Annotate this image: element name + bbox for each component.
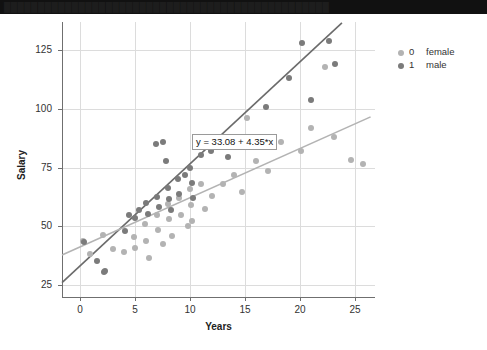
chart-screenshot: ████████████████████████████████████████… [0,0,487,350]
data-point-female [155,227,161,233]
data-point-male [308,97,314,103]
data-point-female [198,181,204,187]
data-point-female [154,212,160,218]
title-bar: ████████████████████████████████████████… [0,0,487,14]
data-point-male [153,141,159,147]
regression-equation-text: y = 33.08 + 4.35*x [196,136,273,147]
data-point-male [198,152,204,158]
data-point-female [348,157,354,163]
plot-area: 2550751001250510152025 Salary Years y = … [0,14,487,350]
legend-item-label: male [426,59,447,70]
data-point-male [326,38,332,44]
data-point-female [142,221,148,227]
legend-item-code: 0 [409,46,414,57]
legend-item-code: 1 [409,59,414,70]
data-point-male [143,200,149,206]
data-point-female [187,186,193,192]
data-point-female [87,251,93,257]
data-point-male [132,215,138,221]
data-point-male [156,204,162,210]
data-point-female [131,234,137,240]
data-point-female [143,238,149,244]
data-point-male [263,104,269,110]
x-axis-title: Years [59,321,379,332]
data-point-female [132,245,138,251]
data-point-female [110,246,116,252]
data-point-male [187,165,193,171]
data-point-male [165,185,171,191]
data-point-male [189,180,195,186]
data-point-female [189,218,195,224]
data-point-male [176,191,182,197]
data-point-male [81,239,87,245]
data-point-female [253,158,259,164]
data-point-male [94,258,100,264]
data-point-female [231,172,237,178]
legend-marker-icon [398,63,404,69]
y-axis-title: Salary [16,149,27,179]
data-point-male [154,194,160,200]
regression-equation-label: y = 33.08 + 4.35*x [192,134,277,150]
data-point-female [308,125,314,131]
data-point-female [209,193,215,199]
title-bar-text: ████████████████████████████████████████… [4,1,329,13]
legend-marker-icon [398,50,404,56]
legend-item-label: female [426,46,455,57]
data-point-male [122,228,128,234]
data-point-female [100,232,106,238]
data-point-male [145,211,151,217]
data-point-female [178,212,184,218]
data-point-male [163,158,169,164]
